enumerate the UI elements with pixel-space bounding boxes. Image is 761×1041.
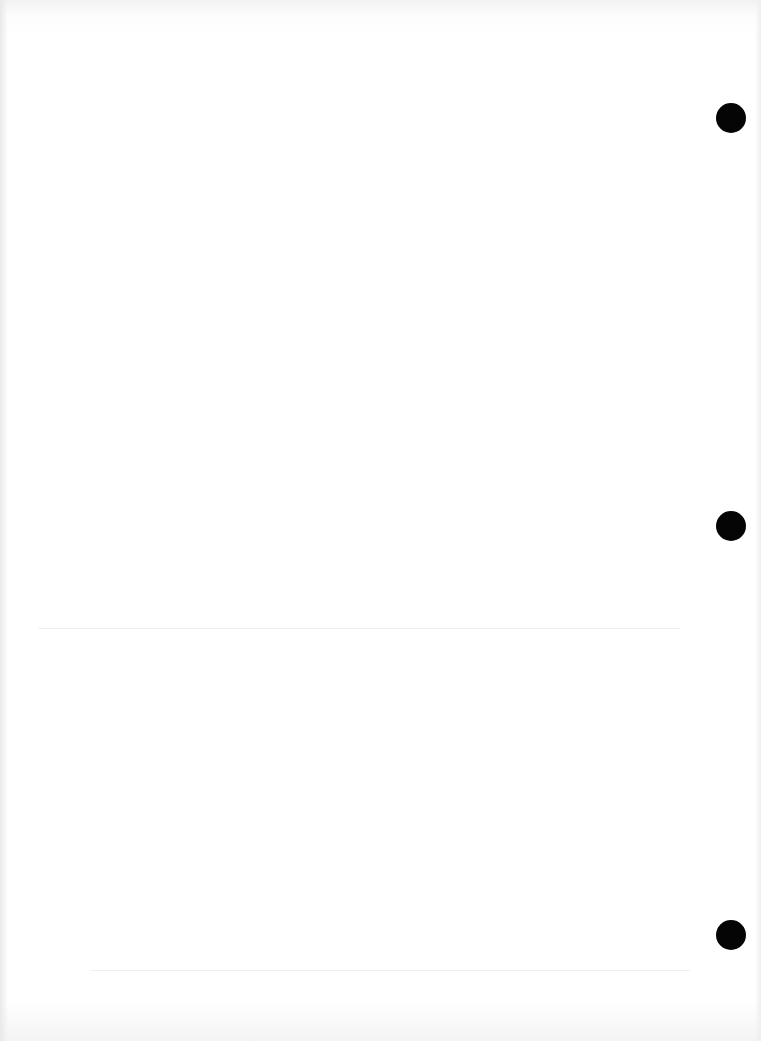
punch-hole-top (716, 103, 746, 133)
page-left-edge-shadow (0, 0, 8, 1041)
faint-horizontal-rule (38, 628, 680, 629)
punch-hole-bottom (716, 920, 746, 950)
scanned-page (0, 0, 761, 1041)
punch-hole-middle (716, 511, 746, 541)
page-right-edge-shadow (755, 0, 761, 1041)
faint-footer-rule (90, 970, 690, 971)
